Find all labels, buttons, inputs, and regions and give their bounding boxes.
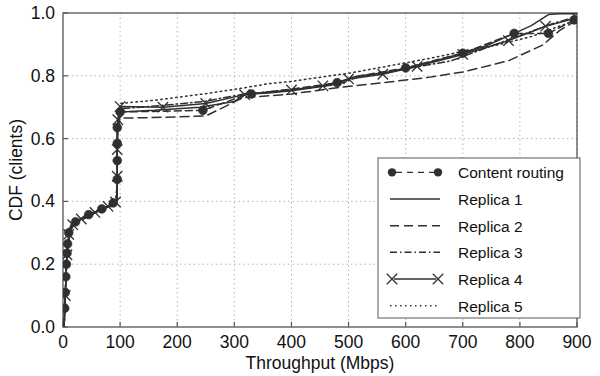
chart-legend: Content routingReplica 1Replica 2Replica… (378, 158, 580, 318)
legend-label: Replica 5 (458, 298, 523, 315)
x-tick-label: 800 (505, 332, 534, 352)
chart-canvas: 0100200300400500600700800900 0.00.20.40.… (0, 0, 600, 376)
x-axis-label: Throughput (Mbps) (246, 353, 395, 373)
x-tick-label: 600 (391, 332, 420, 352)
y-tick-label: 0.2 (31, 254, 55, 274)
y-tick-label: 0.8 (31, 66, 55, 86)
legend-label: Content routing (458, 164, 564, 181)
y-tick-label: 0.6 (31, 129, 55, 149)
x-tick-label: 400 (277, 332, 306, 352)
cdf-throughput-chart: 0100200300400500600700800900 0.00.20.40.… (0, 0, 600, 376)
x-tick-label: 200 (163, 332, 192, 352)
legend-label: Replica 1 (458, 191, 523, 208)
x-tick-label: 100 (106, 332, 135, 352)
y-tick-label: 0.0 (31, 317, 56, 337)
y-tick-label: 1.0 (31, 3, 56, 23)
legend-marker-sample (388, 168, 396, 176)
legend-label: Replica 3 (458, 244, 523, 261)
x-tick-label: 900 (562, 332, 591, 352)
x-tick-label: 300 (220, 332, 249, 352)
y-axis-label: CDF (clients) (6, 119, 26, 221)
legend-label: Replica 4 (458, 271, 523, 288)
legend-label: Replica 2 (458, 218, 523, 235)
x-tick-label: 0 (58, 332, 68, 352)
x-tick-label: 700 (448, 332, 477, 352)
y-tick-label: 0.4 (31, 191, 56, 211)
x-tick-label: 500 (334, 332, 363, 352)
legend-marker-sample (434, 168, 442, 176)
legend-box (378, 158, 580, 318)
